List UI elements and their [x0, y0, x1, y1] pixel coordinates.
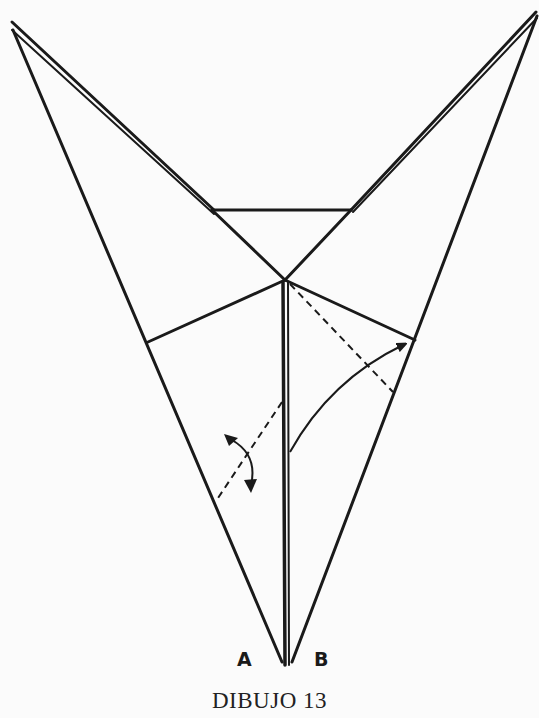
point-label-a: A [237, 648, 252, 670]
figure-caption: DIBUJO 13 [0, 688, 539, 714]
center-vertical-fold-b [288, 282, 289, 665]
right-upper-edge [351, 12, 536, 210]
point-label-b: B [314, 648, 328, 670]
fold-arrow-right [290, 345, 403, 452]
arrowhead-up-icon [224, 434, 238, 446]
origami-fold-diagram [0, 0, 539, 718]
right-spoke [285, 280, 415, 340]
right-valley-fold-dashed [290, 284, 393, 392]
left-upper-edge [12, 22, 214, 210]
right-diagonal-to-center [285, 210, 351, 280]
arrowhead-down-icon [244, 479, 257, 493]
left-spoke [148, 280, 285, 342]
left-diagonal-to-center [212, 210, 285, 280]
left-outer-edge [13, 30, 282, 662]
right-upper-edge-inner [353, 18, 537, 212]
left-upper-edge-inner [12, 30, 214, 214]
center-vertical-fold-a [283, 282, 285, 665]
